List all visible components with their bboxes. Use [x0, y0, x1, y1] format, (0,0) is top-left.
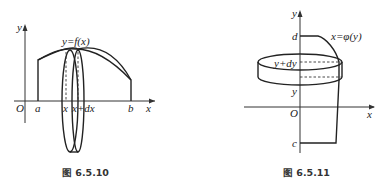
curve-label: y=f(x): [61, 35, 90, 48]
tick-b: b: [128, 102, 134, 114]
origin-label: O: [290, 107, 298, 119]
origin-label: O: [16, 102, 24, 114]
figure-6-5-11: y x O d y+dy y c x=φ(y) 图 6.5.11: [244, 7, 375, 178]
y-axis-label: y: [291, 7, 297, 19]
y-axis-arrow-icon: [298, 10, 303, 17]
tick-x: x: [62, 102, 68, 114]
tick-a: a: [35, 102, 41, 114]
tick-y-plus-dy: y+dy: [273, 57, 297, 69]
figure-caption: 图 6.5.11: [283, 167, 330, 178]
figure-canvas: y x O a x x+dx b y=f(x) 图 6.5.10 y x O d…: [0, 0, 383, 192]
curve-f-of-x-smooth: [38, 49, 131, 80]
tick-y: y: [291, 85, 297, 97]
tick-d: d: [292, 30, 298, 42]
x-axis-label: x: [366, 108, 372, 120]
y-axis-label: y: [16, 21, 22, 33]
tick-x-plus-dx: x+dx: [71, 102, 95, 114]
figure-caption: 图 6.5.10: [62, 167, 109, 178]
curve-label: x=φ(y): [330, 30, 362, 43]
tick-c: c: [292, 137, 297, 149]
x-axis-label: x: [145, 102, 151, 114]
curve-phi-of-y: [300, 36, 339, 143]
y-axis-arrow-icon: [23, 24, 28, 31]
figure-6-5-10: y x O a x x+dx b y=f(x) 图 6.5.10: [14, 21, 155, 178]
